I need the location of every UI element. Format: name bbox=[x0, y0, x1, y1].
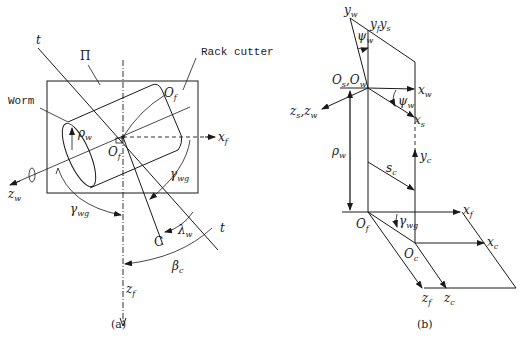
label-yc: yc bbox=[420, 150, 431, 165]
label-c: C bbox=[154, 236, 163, 248]
label-of-b: Of bbox=[356, 218, 369, 233]
label-sc: sc bbox=[386, 162, 397, 177]
label-psi-w-right: ψw bbox=[398, 95, 414, 110]
label-os-ow: Os,Ow bbox=[332, 74, 366, 89]
label-zs-zw: zs,zw bbox=[290, 105, 317, 120]
label-xf: xf bbox=[218, 131, 228, 146]
label-zc: zc bbox=[444, 292, 455, 307]
label-zw: zw bbox=[8, 188, 21, 203]
label-gamma-wg-left: γwg bbox=[70, 203, 89, 218]
label-gamma-wg-right: γwg bbox=[170, 168, 189, 183]
label-lambda-w: λw bbox=[178, 224, 192, 239]
label-worm: Worm bbox=[8, 96, 34, 107]
label-xc: xc bbox=[487, 236, 498, 251]
label-xs: xs bbox=[414, 114, 425, 129]
figure-canvas: t Π Rack cutter Worm Of ρw xf Of γwg zw … bbox=[0, 0, 522, 345]
label-yw: yw bbox=[344, 4, 358, 19]
label-xw: xw bbox=[418, 84, 432, 99]
label-t-top: t bbox=[36, 34, 41, 46]
caption-b: (b) bbox=[417, 319, 433, 330]
label-beta-c: βc bbox=[172, 260, 183, 275]
label-of-center: Of bbox=[108, 146, 121, 161]
label-plane-pi: Π bbox=[80, 50, 90, 62]
label-of-top: Of bbox=[164, 87, 177, 102]
label-rho-w: ρw bbox=[78, 127, 92, 142]
c-line bbox=[123, 137, 163, 245]
worm-top-edge bbox=[68, 85, 152, 122]
panel-a-drawing bbox=[10, 48, 218, 326]
label-oc: Oc bbox=[404, 248, 418, 263]
label-gamma-wg-b: γwg bbox=[399, 215, 418, 230]
label-zf: zf bbox=[126, 283, 135, 298]
label-xf-b: xf bbox=[463, 204, 473, 219]
label-rho-w-b: ρw bbox=[332, 145, 346, 160]
caption-a: (a) bbox=[111, 319, 126, 330]
label-zf-b: zf bbox=[422, 292, 431, 307]
worm-axis bbox=[10, 107, 190, 185]
label-psi-w-top: ψw bbox=[357, 30, 373, 45]
label-t-bottom: t bbox=[220, 222, 225, 234]
label-rack-cutter: Rack cutter bbox=[201, 47, 274, 58]
